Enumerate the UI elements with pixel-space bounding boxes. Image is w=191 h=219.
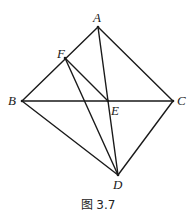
segment-cd [118,101,173,175]
point-d [117,174,120,177]
label-a: A [92,10,101,25]
segment-ac [98,27,173,101]
label-c: C [177,93,186,108]
segment-bd [22,101,118,175]
segment-fe [65,58,108,101]
figure-caption: 图 3.7 [81,198,116,212]
point-e [107,100,110,103]
label-d: D [112,177,123,192]
point-c [172,100,175,103]
point-a [97,26,100,29]
label-b: B [8,93,16,108]
label-f: F [56,46,66,61]
label-e: E [110,103,119,118]
geometry-figure: A B C D E F 图 3.7 [0,0,191,219]
point-b [21,100,24,103]
segment-ab [22,27,98,101]
